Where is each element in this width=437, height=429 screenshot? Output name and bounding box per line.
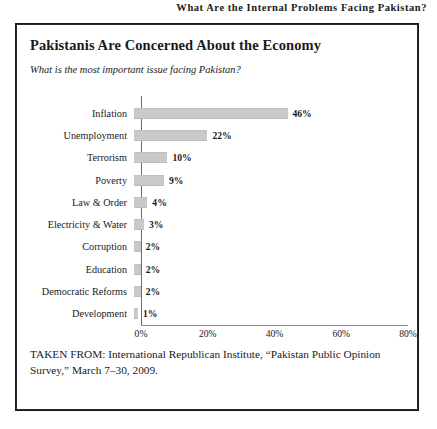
bar-chart: Inflation46%Unemployment22%Terrorism10%P… [16,96,420,331]
bar-row: Development1% [16,303,420,325]
bar-track: 46% [134,102,420,124]
bar-track: 10% [134,147,420,169]
bar-category-label: Unemployment [16,130,134,141]
bar [134,108,288,119]
bar-value-label: 22% [212,130,231,141]
bar [134,175,164,186]
bar-row: Poverty9% [16,169,420,191]
x-axis-tick-label: 80% [399,328,417,339]
bar [134,130,207,141]
bar-track: 9% [134,169,420,191]
bar-track: 2% [134,280,420,302]
bar [134,152,167,163]
x-axis-ticks: 0%20%40%60%80% [16,328,420,344]
bar-category-label: Inflation [16,108,134,119]
bar-value-label: 2% [146,241,160,252]
bar-category-label: Development [16,308,134,319]
bar-row: Inflation46% [16,102,420,124]
bar-value-label: 1% [143,308,157,319]
bar-track: 2% [134,236,420,258]
bar-track: 4% [134,191,420,213]
bar-track: 3% [134,213,420,235]
bar [134,219,144,230]
bar-track: 2% [134,258,420,280]
figure-subtitle: What is the most important issue facing … [30,64,241,75]
bar-value-label: 4% [152,197,166,208]
bar [134,264,141,275]
bar-value-label: 3% [149,219,163,230]
bar-value-label: 9% [169,175,183,186]
bar-row: Law & Order4% [16,191,420,213]
running-head: What Are the Internal Problems Facing Pa… [7,2,427,13]
x-axis-tick-label: 20% [199,328,217,339]
bar-value-label: 2% [146,264,160,275]
bar-track: 22% [134,124,420,146]
bar-track: 1% [134,303,420,325]
x-axis-tick-label: 60% [332,328,350,339]
x-axis-tick-label: 0% [135,328,148,339]
bar-category-label: Law & Order [16,197,134,208]
bar-category-label: Corruption [16,241,134,252]
bar-category-label: Poverty [16,175,134,186]
bar-row: Democratic Reforms2% [16,280,420,302]
bar-value-label: 46% [293,108,312,119]
bar-category-label: Democratic Reforms [16,286,134,297]
bar-rows: Inflation46%Unemployment22%Terrorism10%P… [16,102,420,325]
bar [134,197,147,208]
bar [134,308,138,319]
figure-title: Pakistanis Are Concerned About the Econo… [30,37,321,54]
bar [134,286,141,297]
bar-row: Corruption2% [16,236,420,258]
x-axis-tick-label: 40% [266,328,284,339]
bar-category-label: Education [16,264,134,275]
bar-row: Education2% [16,258,420,280]
bar-value-label: 10% [172,152,191,163]
bar [134,241,141,252]
figure-box: Pakistanis Are Concerned About the Econo… [15,23,419,411]
x-axis-line [141,325,408,326]
bar-category-label: Electricity & Water [16,219,134,230]
bar-category-label: Terrorism [16,152,134,163]
bar-row: Terrorism10% [16,147,420,169]
bar-row: Unemployment22% [16,124,420,146]
source-note: TAKEN FROM: International Republican Ins… [30,346,406,378]
bar-row: Electricity & Water3% [16,213,420,235]
bar-value-label: 2% [146,286,160,297]
